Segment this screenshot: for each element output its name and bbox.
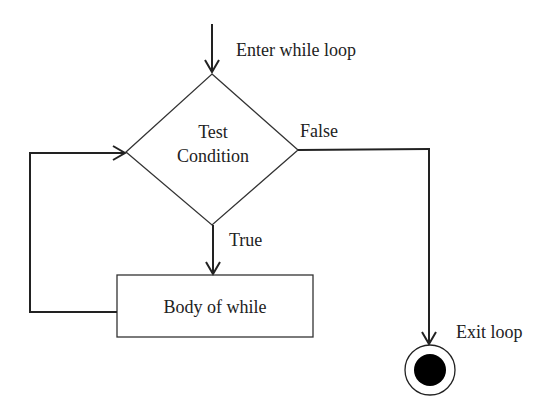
entry-label: Enter while loop [236, 40, 356, 60]
false-label: False [300, 121, 338, 141]
end-inner-circle [414, 354, 446, 386]
exit-label: Exit loop [456, 322, 523, 342]
decision-label-line1: Test [198, 122, 228, 142]
body-label: Body of while [164, 297, 267, 317]
entry-arrow [205, 24, 219, 72]
decision-label-line2: Condition [177, 146, 249, 166]
true-label: True [229, 230, 262, 250]
exit-final-state [405, 345, 455, 395]
false-branch-arrow [298, 148, 436, 344]
true-branch-arrow [206, 225, 220, 274]
loop-back-arrow [30, 146, 125, 312]
flowchart-canvas: Enter while loop Test Condition False Tr… [0, 0, 560, 418]
